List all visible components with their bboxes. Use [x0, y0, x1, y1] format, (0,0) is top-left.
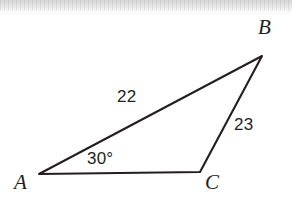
side-length-label-ab: 22 [117, 88, 136, 105]
angle-measure-label-a: 30° [87, 150, 113, 167]
triangle-drawing [0, 0, 292, 205]
geometry-figure: A B C 22 23 30° [0, 0, 292, 205]
vertex-label-a: A [14, 172, 27, 193]
triangle-abc-outline [39, 56, 262, 174]
side-length-label-bc: 23 [234, 116, 253, 133]
vertex-label-b: B [258, 17, 271, 38]
vertex-label-c: C [205, 172, 219, 193]
